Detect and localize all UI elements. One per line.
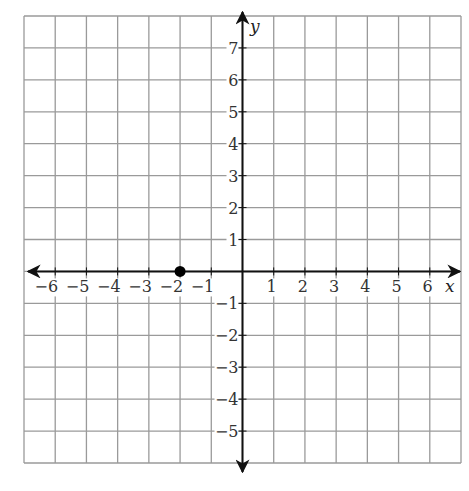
y-tick-label: 7 <box>228 39 238 58</box>
x-tick-label: 6 <box>423 277 433 296</box>
y-tick-label: −5 <box>215 422 239 441</box>
x-tick-label: −5 <box>66 277 90 296</box>
coordinate-plane: −6−5−4−3−2−1123456−5−4−3−2−11234567 x y <box>0 0 469 491</box>
plotted-points <box>175 266 186 277</box>
y-tick-label: 1 <box>228 231 238 250</box>
y-tick-label: 3 <box>228 167 238 186</box>
x-tick-label: 1 <box>267 277 277 296</box>
x-tick-label: −3 <box>128 277 152 296</box>
data-point <box>175 266 186 277</box>
y-tick-label: 6 <box>228 71 238 90</box>
y-tick-label: −3 <box>215 358 239 377</box>
y-tick-label: −4 <box>215 390 239 409</box>
x-tick-label: −4 <box>97 277 121 296</box>
axes <box>28 12 460 472</box>
y-tick-label: 5 <box>228 103 238 122</box>
x-tick-label: 4 <box>360 277 370 296</box>
x-tick-label: −6 <box>35 277 59 296</box>
x-tick-label: 2 <box>298 277 308 296</box>
y-tick-label: 4 <box>228 135 238 154</box>
y-tick-label: 2 <box>228 199 238 218</box>
x-axis-label: x <box>445 276 455 296</box>
y-tick-label: −2 <box>215 326 239 345</box>
x-tick-label: −2 <box>159 277 183 296</box>
y-axis-label: y <box>249 16 260 36</box>
y-tick-label: −1 <box>215 294 239 313</box>
x-tick-label: 3 <box>329 277 339 296</box>
x-tick-label: −1 <box>191 277 215 296</box>
x-tick-label: 5 <box>391 277 401 296</box>
